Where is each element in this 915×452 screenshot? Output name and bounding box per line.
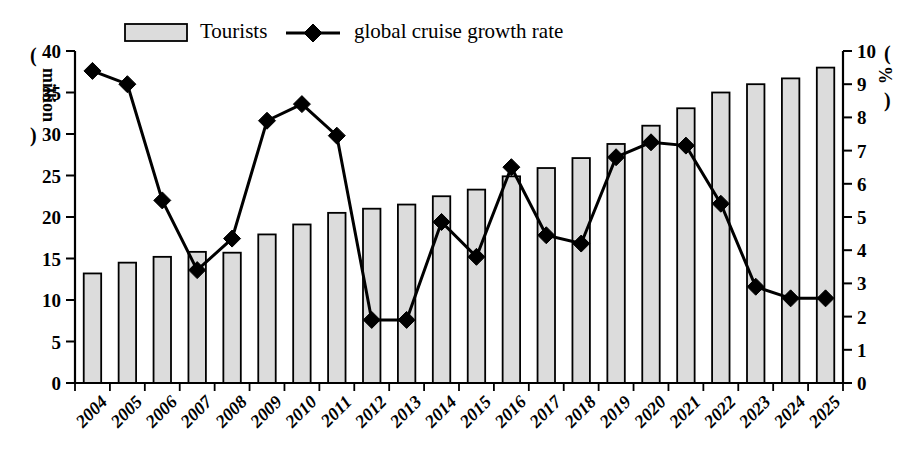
legend-swatch-tourists [125,24,187,41]
x-axis-label-2022[interactable]: 2022 [699,392,739,432]
right-axis-paren-open: ( [884,42,891,65]
x-axis-label-2004[interactable]: 2004 [71,392,111,432]
x-axis-label-2020[interactable]: 2020 [630,392,670,432]
x-axis-label-2005[interactable]: 2005 [106,392,146,432]
x-axis-label-2009[interactable]: 2009 [246,392,286,432]
plot-area: 2004: 13.2 million2005: 14.5 million2006… [42,41,876,432]
bar-2006[interactable]: 2006: 15.2 million [154,257,171,383]
right-tick-label: 9 [857,74,867,95]
legend-diamond-icon [304,24,322,42]
x-axis-label-2006[interactable]: 2006 [141,392,181,432]
left-axis-paren-close: ) [30,124,37,147]
right-tick-label: 5 [857,207,867,228]
chart-legend: Tourists global cruise growth rate [125,19,563,43]
left-tick-label: 15 [42,249,61,270]
bar-2012[interactable]: 2012: 21 million [363,209,380,383]
left-tick-label: 35 [42,83,61,104]
right-tick-label: 10 [857,41,876,62]
left-tick-label: 10 [42,290,61,311]
right-axis-title: % [875,66,895,84]
x-axis-label-2018[interactable]: 2018 [560,392,600,432]
x-axis-label-2010[interactable]: 2010 [280,392,320,432]
x-axis-label-2007[interactable]: 2007 [176,391,217,432]
x-axis-label-2015[interactable]: 2015 [455,392,495,432]
bar-2011[interactable]: 2011: 20.5 million [328,213,345,383]
left-axis-paren-open: ( [30,44,37,67]
bar-line-combo-chart: Tourists global cruise growth rate ( mil… [0,0,915,452]
right-tick-label: 7 [857,141,867,162]
x-axis-label-2023[interactable]: 2023 [734,392,774,432]
right-tick-label: 2 [857,307,867,328]
bar-2004[interactable]: 2004: 13.2 million [84,273,101,383]
bar-2024[interactable]: 2024: 36.7 million [782,78,799,383]
bar-2010[interactable]: 2010: 19.1 million [293,224,310,383]
data-point-2004[interactable]: 2004: 9.4% [84,62,101,79]
legend-label-growth-rate: global cruise growth rate [354,19,563,43]
right-tick-label: 8 [857,107,867,128]
bar-2016[interactable]: 2016: 24.9 million [503,176,520,383]
x-axis-label-2016[interactable]: 2016 [490,392,530,432]
bar-2005[interactable]: 2005: 14.5 million [119,263,136,383]
bar-2013[interactable]: 2013: 21.5 million [398,205,415,383]
x-axis-label-2012[interactable]: 2012 [350,392,390,432]
right-axis-paren-close: ) [884,89,891,112]
x-axis-label-2011[interactable]: 2011 [316,392,356,432]
left-tick-label: 25 [42,166,61,187]
data-point-2006[interactable]: 2006: 5.5% [154,192,171,209]
left-tick-label: 40 [42,41,61,62]
x-axis-label-2013[interactable]: 2013 [385,392,425,432]
x-axis-label-2017[interactable]: 2017 [525,391,566,432]
bar-2018[interactable]: 2018: 27.1 million [572,158,589,383]
x-axis-label-2024[interactable]: 2024 [769,392,809,432]
bar-2009[interactable]: 2009: 17.9 million [258,234,275,383]
x-axis-label-2019[interactable]: 2019 [595,392,635,432]
right-tick-label: 3 [857,273,867,294]
x-axis-label-2025[interactable]: 2025 [804,392,844,432]
bar-2020[interactable]: 2020: 31 million [642,126,659,383]
left-tick-label: 20 [42,207,61,228]
right-tick-label: 4 [857,240,867,261]
x-axis-label-2008[interactable]: 2008 [211,392,251,432]
right-tick-label: 0 [857,373,867,394]
x-axis-label-2014[interactable]: 2014 [420,392,460,432]
bar-2019[interactable]: 2019: 28.8 million [607,144,624,383]
bar-2008[interactable]: 2008: 15.7 million [223,253,240,383]
bar-2023[interactable]: 2023: 36 million [747,84,764,383]
right-tick-label: 6 [857,174,867,195]
data-point-2016[interactable]: 2016: 6.5% [503,159,520,176]
data-point-2009[interactable]: 2009: 7.9% [259,112,276,129]
data-point-2005[interactable]: 2005: 9% [119,76,136,93]
right-tick-label: 1 [857,340,867,361]
bar-2022[interactable]: 2022: 35 million [712,93,729,384]
bar-2017[interactable]: 2017: 25.9 million [538,168,555,383]
bar-2025[interactable]: 2025: 38 million [817,68,834,383]
left-tick-label: 0 [52,373,62,394]
left-tick-label: 5 [52,332,62,353]
legend-label-tourists: Tourists [200,19,267,43]
chart-container: Tourists global cruise growth rate ( mil… [0,0,915,452]
bar-2015[interactable]: 2015: 23.3 million [468,190,485,383]
x-axis-label-2021[interactable]: 2021 [664,392,704,432]
left-tick-label: 30 [42,124,61,145]
